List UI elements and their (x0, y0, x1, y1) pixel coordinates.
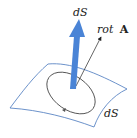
stokes-surface-diagram: dS rot A dS (0, 0, 137, 138)
curl-operator: rot (97, 23, 114, 36)
surface-element-label: dS (104, 107, 119, 120)
curl-vector-label: rot A (97, 23, 129, 36)
normal-vector-label: dS (73, 6, 88, 19)
normal-vector-arrow (69, 19, 85, 89)
curl-vector-arrow (76, 37, 101, 86)
curl-field-symbol: A (119, 23, 129, 36)
